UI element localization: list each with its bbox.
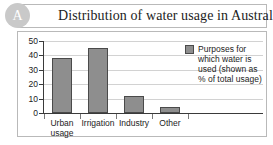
bar xyxy=(160,107,180,113)
plot-area: 01020304050 Urban usageIrrigationIndustr… xyxy=(18,32,266,136)
chart-legend: Purposes for which water is used (shown … xyxy=(185,44,267,84)
y-tick-mark xyxy=(39,84,43,85)
bar-group xyxy=(152,41,188,113)
x-tick-label: Other xyxy=(149,119,191,129)
y-tick-label: 50 xyxy=(18,36,38,46)
y-tick-mark xyxy=(39,55,43,56)
y-tick-mark xyxy=(39,41,43,42)
bar-series xyxy=(44,41,188,113)
legend-swatch-icon xyxy=(185,45,194,54)
bar xyxy=(124,96,144,113)
y-tick-label: 10 xyxy=(18,94,38,104)
figure-badge: A xyxy=(5,3,30,28)
y-tick-label: 30 xyxy=(18,65,38,75)
title-box: Distribution of water usage in Australia xyxy=(17,4,267,28)
page-title: Distribution of water usage in Australia xyxy=(58,8,273,24)
legend-label: Purposes for which water is used (shown … xyxy=(198,44,264,84)
bar-group xyxy=(44,41,80,113)
bar-group xyxy=(116,41,152,113)
bar xyxy=(52,58,72,113)
y-tick-mark xyxy=(39,99,43,100)
y-tick-label: 40 xyxy=(18,50,38,60)
y-tick-label: 20 xyxy=(18,79,38,89)
bar-group xyxy=(80,41,116,113)
y-tick-mark xyxy=(39,70,43,71)
y-tick-label: 0 xyxy=(18,108,38,118)
x-axis-line xyxy=(43,113,263,114)
chart-box: 01020304050 Urban usageIrrigationIndustr… xyxy=(17,31,267,137)
bar xyxy=(88,48,108,113)
x-axis-labels: Urban usageIrrigationIndustryOther xyxy=(44,119,192,139)
y-tick-mark xyxy=(39,113,43,114)
chart-figure: Distribution of water usage in Australia… xyxy=(0,0,273,145)
